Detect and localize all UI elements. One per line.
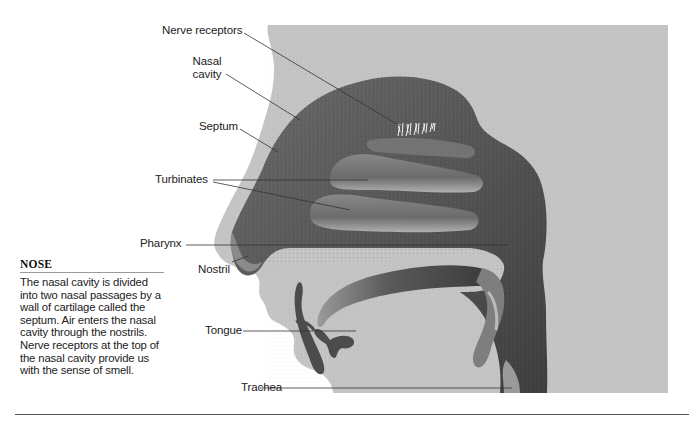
nose-diagram: Nerve receptors Nasal cavity Septum Turb…: [0, 0, 689, 424]
label-nasal-cavity-line1: Nasal: [189, 55, 225, 68]
label-nostril: Nostril: [198, 263, 230, 276]
label-nasal-cavity: Nasal cavity: [189, 55, 225, 81]
label-turbinates: Turbinates: [155, 173, 208, 186]
caption-title: NOSE: [20, 258, 164, 273]
label-nasal-cavity-line2: cavity: [189, 68, 225, 81]
label-tongue: Tongue: [205, 324, 242, 337]
caption-body: The nasal cavity is divided into two nas…: [20, 276, 164, 377]
label-nerve-receptors: Nerve receptors: [162, 24, 242, 37]
label-septum: Septum: [199, 120, 238, 133]
label-trachea: Trachea: [241, 381, 282, 394]
caption-box: NOSE The nasal cavity is divided into tw…: [20, 258, 164, 377]
footer-divider: [15, 414, 689, 415]
label-pharynx: Pharynx: [140, 237, 182, 250]
